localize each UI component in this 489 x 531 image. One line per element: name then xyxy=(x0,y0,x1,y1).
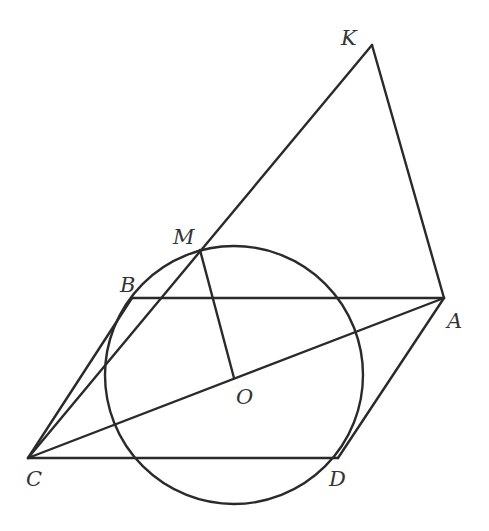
segment-ca xyxy=(28,298,444,458)
label-b: B xyxy=(119,273,135,297)
label-a: A xyxy=(445,309,462,333)
label-o: O xyxy=(236,385,253,409)
segment-ka xyxy=(372,45,444,298)
label-d: D xyxy=(328,467,346,491)
label-k: K xyxy=(340,26,358,50)
segment-cb xyxy=(28,298,132,458)
segment-mo xyxy=(200,250,234,378)
segment-da xyxy=(338,298,444,458)
geometry-diagram: K M B A O C D xyxy=(0,0,489,531)
label-c: C xyxy=(26,467,42,491)
label-m: M xyxy=(172,225,195,249)
